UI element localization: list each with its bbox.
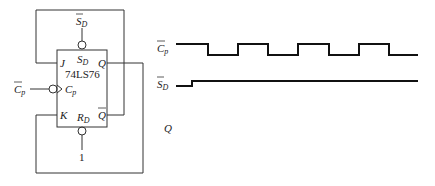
timing-label-q: Q [164, 122, 172, 134]
cp-inversion-bubble [49, 85, 57, 93]
pin-k: K [59, 109, 68, 121]
pin-sd: SD [77, 53, 89, 67]
pin-cp: Cp [65, 83, 76, 97]
waveform-cp-bar [176, 44, 418, 55]
pin-q: Q [98, 57, 106, 69]
timing-label-sd-bar: SD [157, 78, 169, 92]
clock-edge-icon [57, 85, 62, 93]
pin-rd: RD [76, 111, 90, 125]
timing-label-cp-bar: Cp [157, 42, 168, 56]
input-cp-bar-label: Cp [14, 83, 25, 97]
rd-inversion-bubble [78, 127, 86, 135]
input-sd-bar-label: SD [76, 15, 88, 29]
rd-value-label: 1 [79, 151, 85, 163]
chip-label: 74LS76 [65, 68, 100, 80]
sd-inversion-bubble [78, 41, 86, 49]
pin-qbar: Q [98, 109, 106, 121]
waveform-sd-bar [176, 81, 418, 86]
flip-flop-diagram: 74LS76 J K Q Q SD RD Cp SD Cp 1 Cp SD Q [0, 0, 435, 186]
